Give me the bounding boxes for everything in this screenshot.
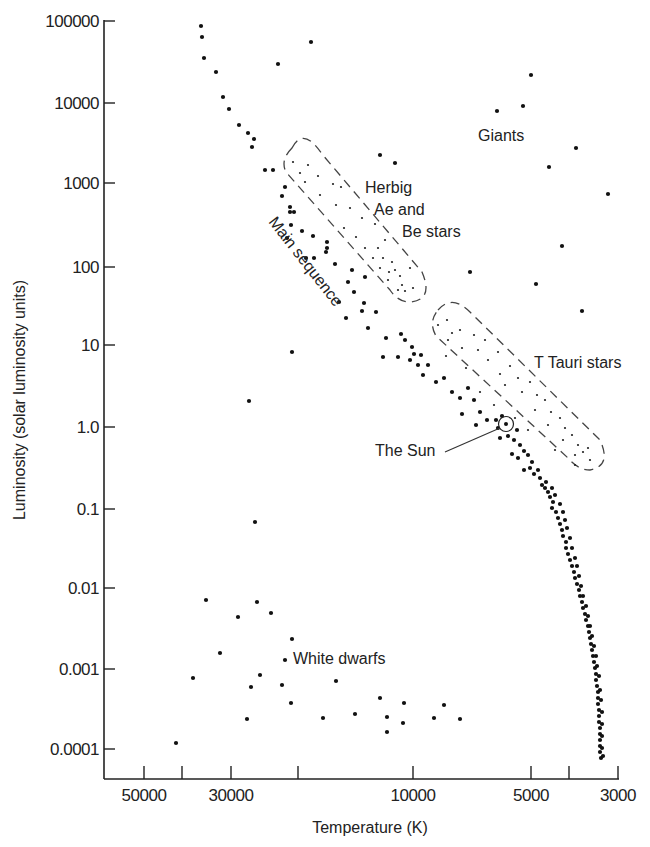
star-point [570, 564, 574, 568]
star-point [554, 510, 558, 514]
star-point [269, 611, 273, 615]
star-point [446, 319, 448, 321]
star-point [477, 349, 479, 351]
star-point [562, 439, 564, 441]
star-point [355, 236, 357, 238]
star-point [191, 676, 195, 680]
star-point [199, 24, 203, 28]
star-point [271, 168, 275, 172]
star-point [550, 411, 552, 413]
star-point [580, 309, 584, 313]
star-point [388, 271, 390, 273]
star-point [450, 390, 454, 394]
star-point [372, 257, 374, 259]
star-point [536, 394, 538, 396]
star-point [276, 62, 280, 66]
star-point [582, 451, 584, 453]
axes: 100000100001000100101.00.10.010.0010.000… [45, 12, 636, 805]
star-points [174, 24, 610, 760]
star-point [402, 701, 406, 705]
star-point [559, 417, 561, 419]
star-point [543, 486, 547, 490]
star-point [442, 376, 446, 380]
star-point [532, 472, 536, 476]
star-point [473, 334, 475, 336]
star-point [399, 275, 401, 277]
star-point [495, 109, 499, 113]
star-point [292, 161, 294, 163]
star-point [584, 604, 588, 608]
star-point [325, 240, 329, 244]
star-point [596, 702, 600, 706]
star-point [288, 210, 292, 214]
star-point [556, 516, 560, 520]
x-tick-label: 30000 [209, 786, 254, 805]
star-point [564, 546, 568, 550]
star-point [384, 239, 386, 241]
series-main-sequence [199, 24, 605, 760]
star-point [387, 279, 389, 281]
star-point [514, 417, 516, 419]
star-point [554, 449, 556, 451]
star-point [597, 674, 601, 678]
star-point [362, 301, 366, 305]
star-point [516, 456, 520, 460]
star-point [258, 673, 262, 677]
star-point [263, 168, 267, 172]
star-point [571, 434, 573, 436]
star-point [237, 123, 241, 127]
star-point [174, 741, 178, 745]
star-point [547, 165, 551, 169]
star-point [363, 275, 367, 279]
star-point [426, 363, 430, 367]
star-point [253, 520, 257, 524]
star-point [561, 534, 565, 538]
y-tick-label: 0.001 [59, 660, 99, 679]
star-point [564, 427, 566, 429]
star-point [218, 651, 222, 655]
star-point [553, 493, 557, 497]
star-point [374, 223, 376, 225]
star-point [592, 660, 596, 664]
star-point [550, 506, 554, 510]
star-point [478, 410, 482, 414]
star-point [479, 391, 481, 393]
star-point [570, 546, 574, 550]
star-point [540, 483, 544, 487]
y-tick-label: 1.0 [77, 418, 99, 437]
star-point [408, 358, 412, 362]
y-tick-label: 0.1 [77, 500, 99, 519]
star-point [565, 526, 569, 530]
star-point [360, 309, 364, 313]
star-point [280, 194, 284, 198]
star-point [304, 181, 306, 183]
star-point [487, 359, 489, 361]
star-point [434, 380, 438, 384]
star-point [600, 710, 604, 714]
star-point [529, 381, 531, 383]
star-point [309, 40, 313, 44]
star-point [498, 436, 502, 440]
star-point [577, 574, 581, 578]
star-point [332, 183, 334, 185]
star-point [385, 730, 389, 734]
star-point [379, 267, 381, 269]
star-point [374, 310, 378, 314]
star-point [564, 540, 568, 544]
star-point [437, 324, 439, 326]
star-point [409, 267, 411, 269]
star-point [421, 373, 425, 377]
star-point [396, 355, 400, 359]
star-point [381, 355, 385, 359]
star-point [600, 734, 604, 738]
star-point [509, 365, 511, 367]
star-point [288, 205, 292, 209]
star-point [504, 384, 506, 386]
star-point [544, 480, 548, 484]
star-point [594, 654, 598, 658]
label-t-tauri: T Tauri stars [534, 354, 621, 371]
star-point [530, 460, 534, 464]
star-point [236, 615, 240, 619]
hr-diagram: 100000100001000100101.00.10.010.0010.000… [0, 0, 650, 847]
y-tick-label: 0.01 [68, 579, 99, 598]
